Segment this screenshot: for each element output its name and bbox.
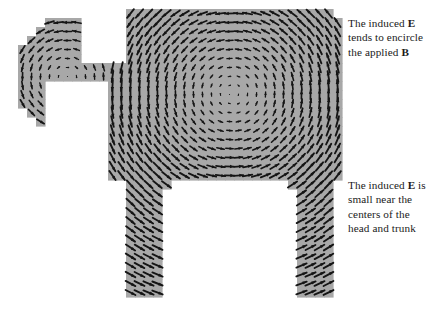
annotation-encircle: The induced Etends to encirclethe applie… bbox=[348, 16, 438, 59]
induced-e-field-figure: The induced Etends to encirclethe applie… bbox=[0, 0, 438, 316]
annotation-centers: The induced E issmall near thecenters of… bbox=[348, 178, 438, 235]
